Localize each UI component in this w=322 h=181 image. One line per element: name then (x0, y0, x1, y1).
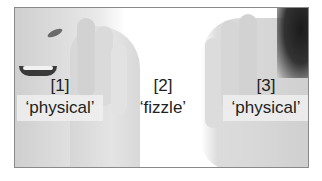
listener-finger (205, 38, 221, 128)
label-index: [2] (123, 77, 203, 95)
speaker-teeth (23, 66, 53, 70)
label-listener: [3] ‘physical’ (223, 77, 309, 121)
label-word: ‘physical’ (17, 95, 103, 121)
label-word: ‘fizzle’ (123, 95, 203, 121)
label-index: [3] (223, 77, 309, 95)
listener-hair (277, 8, 309, 78)
label-word: ‘physical’ (223, 95, 309, 121)
label-index: [1] (17, 77, 103, 95)
label-speaker: [1] ‘physical’ (17, 77, 103, 121)
label-transmission: [2] ‘fizzle’ (123, 77, 203, 121)
figure-frame: [1] ‘physical’ [2] ‘fizzle’ [3] ‘physica… (14, 7, 309, 168)
